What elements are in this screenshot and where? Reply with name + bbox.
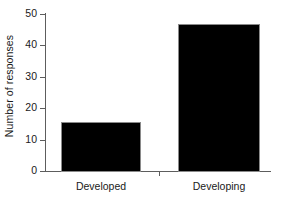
x-category-label-developed: Developed (61, 180, 141, 192)
bar-developing (178, 24, 260, 172)
y-tick-label: 30 (0, 71, 37, 82)
x-category-label-developing: Developing (178, 180, 260, 192)
bar-chart-figure: Number of responses 50 40 30 20 10 0 Dev… (0, 0, 285, 201)
y-tick-20: 20 (0, 108, 45, 109)
y-tick-mark (40, 45, 45, 46)
y-axis-title: Number of responses (2, 0, 16, 171)
y-tick-mark (40, 77, 45, 78)
y-axis-title-text: Number of responses (3, 34, 15, 136)
y-axis-line (45, 13, 46, 172)
y-tick-label: 10 (0, 134, 37, 145)
bar-developed (61, 122, 141, 172)
y-tick-mark (40, 14, 45, 15)
x-tick-mark-separator (159, 171, 160, 176)
y-tick-label: 0 (0, 165, 37, 176)
y-tick-0: 0 (0, 171, 45, 172)
y-tick-mark (40, 171, 45, 172)
y-tick-10: 10 (0, 140, 45, 141)
y-tick-label: 50 (0, 8, 37, 19)
y-tick-label: 20 (0, 102, 37, 113)
y-tick-40: 40 (0, 45, 45, 46)
y-tick-30: 30 (0, 77, 45, 78)
y-tick-mark (40, 140, 45, 141)
y-tick-mark (40, 108, 45, 109)
y-tick-50: 50 (0, 14, 45, 15)
y-tick-label: 40 (0, 39, 37, 50)
